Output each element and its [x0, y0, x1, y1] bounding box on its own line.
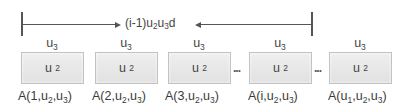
array-label: A(1,u2,u3)	[18, 89, 72, 103]
arrow-left-icon	[195, 22, 201, 28]
span-right-tick	[311, 12, 313, 36]
span-left-line	[22, 24, 116, 25]
u3-label: u3	[329, 36, 391, 50]
array-label: A(2,u2,u3)	[92, 89, 146, 103]
u3-label: u3	[95, 36, 157, 50]
span-right-line	[201, 24, 311, 25]
array-label: A(u1,u2,u3)	[328, 89, 387, 103]
array-box: u 2	[329, 52, 392, 84]
ellipsis: ...	[233, 61, 240, 75]
array-label: A(3,u2,u3)	[165, 89, 219, 103]
u3-label: u3	[168, 36, 230, 50]
array-box: u 2	[168, 52, 231, 84]
array-box: u 2	[249, 52, 312, 84]
array-box: u 2	[21, 52, 84, 84]
array-label: A(i,u2,u3)	[248, 89, 298, 103]
span-label: (i-1)u2u3d	[125, 16, 175, 30]
arrow-right-icon	[115, 22, 121, 28]
u3-label: u3	[249, 36, 311, 50]
ellipsis: ...	[314, 61, 321, 75]
u3-label: u3	[21, 36, 83, 50]
array-box: u 2	[95, 52, 158, 84]
